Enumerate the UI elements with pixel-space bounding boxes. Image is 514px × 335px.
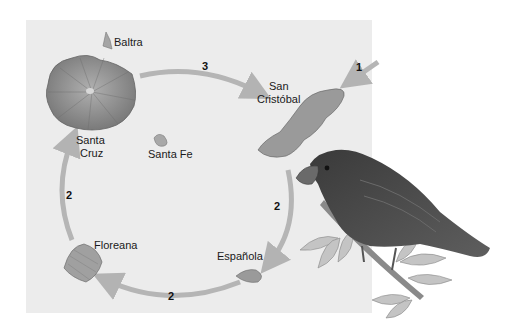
finch-illustration xyxy=(296,150,490,318)
label-espanola: Española xyxy=(217,250,263,262)
label-santa-fe: Santa Fe xyxy=(148,148,193,160)
label-baltra: Baltra xyxy=(114,36,143,48)
island-baltra-icon xyxy=(103,32,112,49)
label-san-cristobal-line1: San xyxy=(269,80,289,92)
arrow-step-3 xyxy=(140,72,258,92)
island-espanola-icon xyxy=(236,270,262,283)
diagram-canvas xyxy=(0,0,514,335)
step-number-2-right: 2 xyxy=(274,200,280,212)
step-number-3: 3 xyxy=(202,60,208,72)
arrow-step-2a xyxy=(270,170,291,262)
label-san-cristobal-line2: Cristóbal xyxy=(257,93,300,105)
island-santa-cruz-icon xyxy=(46,55,135,130)
step-number-2-left: 2 xyxy=(66,189,72,201)
island-santa-fe-icon xyxy=(154,134,167,146)
label-floreana: Floreana xyxy=(94,239,137,251)
label-santa-cruz-line1: Santa xyxy=(76,134,105,146)
step-number-1: 1 xyxy=(356,61,362,73)
step-number-2-bottom: 2 xyxy=(168,290,174,302)
label-santa-cruz-line2: Cruz xyxy=(80,147,103,159)
